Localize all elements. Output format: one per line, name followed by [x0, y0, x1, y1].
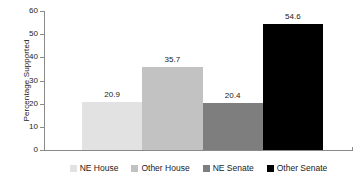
- y-axis-tick-label: 0: [14, 146, 38, 154]
- bar: [263, 24, 323, 150]
- legend-label: NE House: [80, 164, 119, 173]
- legend-label: NE Senate: [213, 164, 254, 173]
- bar: [82, 102, 142, 150]
- x-axis-end-cap: [352, 147, 353, 151]
- y-axis-tick-label: 50: [14, 30, 38, 38]
- y-axis-tick: [40, 57, 44, 58]
- legend-swatch-icon: [70, 165, 77, 172]
- legend-item: Other House: [131, 164, 189, 173]
- y-axis-tick-label: 10: [14, 123, 38, 131]
- chart-legend: NE HouseOther HouseNE SenateOther Senate: [44, 164, 353, 173]
- legend-swatch-icon: [203, 165, 210, 172]
- y-axis-tick-label: 30: [14, 77, 38, 85]
- legend-item: NE House: [70, 164, 119, 173]
- y-axis-tick: [40, 34, 44, 35]
- legend-item: Other Senate: [267, 164, 328, 173]
- y-axis-tick: [40, 104, 44, 105]
- y-axis-tick: [40, 81, 44, 82]
- legend-swatch-icon: [131, 165, 138, 172]
- bar: [203, 103, 263, 150]
- y-axis-tick-label: 40: [14, 53, 38, 61]
- y-axis-tick-label: 20: [14, 100, 38, 108]
- y-axis-tick-label: 60: [14, 7, 38, 15]
- legend-item: NE Senate: [203, 164, 254, 173]
- y-axis-tick: [40, 150, 44, 151]
- bar-value-label: 20.4: [203, 91, 263, 100]
- legend-label: Other House: [141, 164, 189, 173]
- bar-value-label: 20.9: [82, 90, 142, 99]
- plot-area: Percentage Supported 0102030405060 20.93…: [0, 0, 359, 186]
- x-axis-line: [44, 150, 353, 151]
- legend-swatch-icon: [267, 165, 274, 172]
- bar: [142, 67, 202, 150]
- y-axis-tick: [40, 127, 44, 128]
- y-axis-line: [44, 11, 45, 151]
- bar-value-label: 35.7: [142, 55, 202, 64]
- y-axis-tick: [40, 11, 44, 12]
- legend-label: Other Senate: [277, 164, 328, 173]
- bar-chart: Percentage Supported 0102030405060 20.93…: [0, 0, 359, 186]
- bar-value-label: 54.6: [263, 12, 323, 21]
